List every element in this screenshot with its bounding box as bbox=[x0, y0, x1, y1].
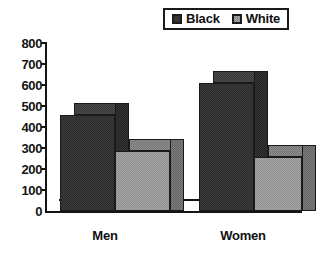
y-tick-500: 500 bbox=[6, 99, 42, 114]
y-axis-line bbox=[45, 42, 47, 212]
bar-front-face bbox=[199, 83, 254, 211]
category-label-women: Women bbox=[208, 228, 278, 243]
y-tick-0: 0 bbox=[6, 204, 42, 219]
y-tick-100: 100 bbox=[6, 183, 42, 198]
bar-women-white bbox=[254, 157, 302, 211]
bar-chart: Black White 800 700 600 500 400 300 200 … bbox=[0, 0, 322, 259]
bar-front-face bbox=[254, 157, 302, 211]
plot-area: 800 700 600 500 400 300 200 100 0 bbox=[0, 0, 322, 259]
y-axis-labels: 800 700 600 500 400 300 200 100 0 bbox=[4, 0, 42, 259]
bar-front-face bbox=[115, 151, 170, 211]
y-tick-800: 800 bbox=[6, 36, 42, 51]
x-axis-line bbox=[45, 211, 184, 213]
y-tick-700: 700 bbox=[6, 57, 42, 72]
bar-men-white bbox=[115, 151, 170, 211]
y-tick-300: 300 bbox=[6, 141, 42, 156]
bar-women-black bbox=[199, 83, 254, 211]
bar-front-face bbox=[60, 115, 115, 211]
y-tick-400: 400 bbox=[6, 120, 42, 135]
x-axis-line-right bbox=[184, 211, 302, 213]
bar-side-face bbox=[170, 139, 184, 211]
bar-men-black bbox=[60, 115, 115, 211]
category-label-men: Men bbox=[75, 228, 135, 243]
bar-side-face bbox=[302, 145, 316, 211]
y-tick-600: 600 bbox=[6, 78, 42, 93]
y-tick-200: 200 bbox=[6, 162, 42, 177]
